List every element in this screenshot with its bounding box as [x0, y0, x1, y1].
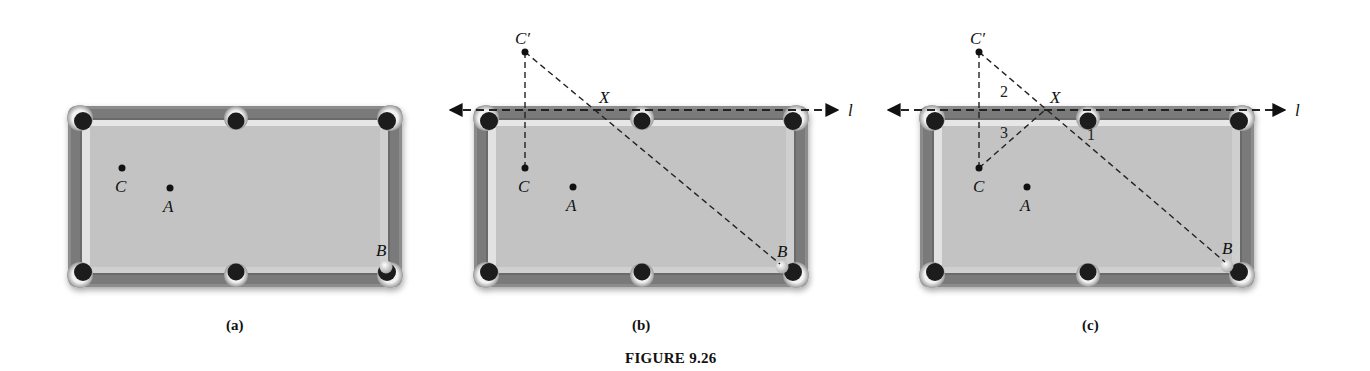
- angle-1-label: 1: [1087, 126, 1095, 143]
- angle-2-label: 2: [1000, 83, 1008, 100]
- point-c-prime: C′: [970, 29, 985, 56]
- point-c-prime: C′: [515, 29, 530, 56]
- point-c-prime-label: C′: [515, 29, 530, 48]
- point-a-label: A: [1019, 196, 1031, 215]
- figure-9-26: C A B (a) l C′ C A: [0, 0, 1370, 371]
- panel-a: C A B (a): [67, 105, 403, 334]
- panel-c: l C′ C A X B 2 3 1 (c): [888, 29, 1300, 334]
- point-c-label: C: [115, 177, 127, 196]
- point-c-prime-label: C′: [970, 29, 985, 48]
- panel-b: l C′ C A X B (b): [450, 29, 853, 334]
- figure-caption: FIGURE 9.26: [625, 350, 717, 366]
- point-b-label: B: [376, 241, 387, 260]
- line-l-label: l: [1295, 101, 1300, 120]
- point-b-label: B: [1222, 239, 1233, 258]
- angle-3-label: 3: [1000, 124, 1008, 141]
- point-b-label: B: [777, 242, 788, 261]
- cue-ball-b: [776, 261, 789, 274]
- point-x-label: X: [1049, 88, 1061, 107]
- cue-ball-b: [380, 261, 393, 274]
- point-a-label: A: [162, 197, 174, 216]
- cue-ball-b: [1221, 260, 1234, 273]
- point-c-label: C: [973, 177, 985, 196]
- pool-table: [473, 105, 809, 288]
- line-l-label: l: [848, 101, 853, 120]
- pool-table: [67, 105, 403, 288]
- panel-a-caption: (a): [226, 317, 244, 334]
- point-c-label: C: [518, 177, 530, 196]
- point-a-label: A: [565, 196, 577, 215]
- panel-c-caption: (c): [1082, 317, 1099, 334]
- point-x-label: X: [598, 88, 610, 107]
- panel-b-caption: (b): [632, 317, 650, 334]
